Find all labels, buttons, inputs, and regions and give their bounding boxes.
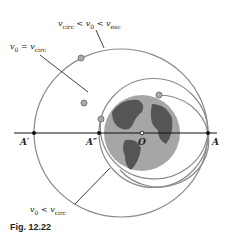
point-a <box>206 131 210 135</box>
point-a-prime <box>32 131 36 135</box>
point-o <box>140 131 144 135</box>
satellite <box>81 100 87 106</box>
satellite <box>98 116 104 122</box>
satellite <box>156 92 162 98</box>
leader-arrow <box>96 30 104 48</box>
orbit-diagram <box>0 0 237 240</box>
label-a: A <box>212 137 219 147</box>
label-o: O <box>138 137 146 147</box>
label-elliptic-outer: vcirc < v0 < vesc <box>58 19 121 30</box>
satellite <box>78 55 84 61</box>
label-elliptic-inner: v0 < vcirc <box>30 205 66 216</box>
label-circular: v0 = vcirc <box>10 42 46 53</box>
label-a-prime: A′ <box>20 137 29 147</box>
point-a-double-prime <box>97 131 101 135</box>
figure-caption: Fig. 12.22 <box>10 222 51 232</box>
leader-arrow <box>75 168 110 204</box>
label-a-double-prime: A″ <box>86 137 97 147</box>
